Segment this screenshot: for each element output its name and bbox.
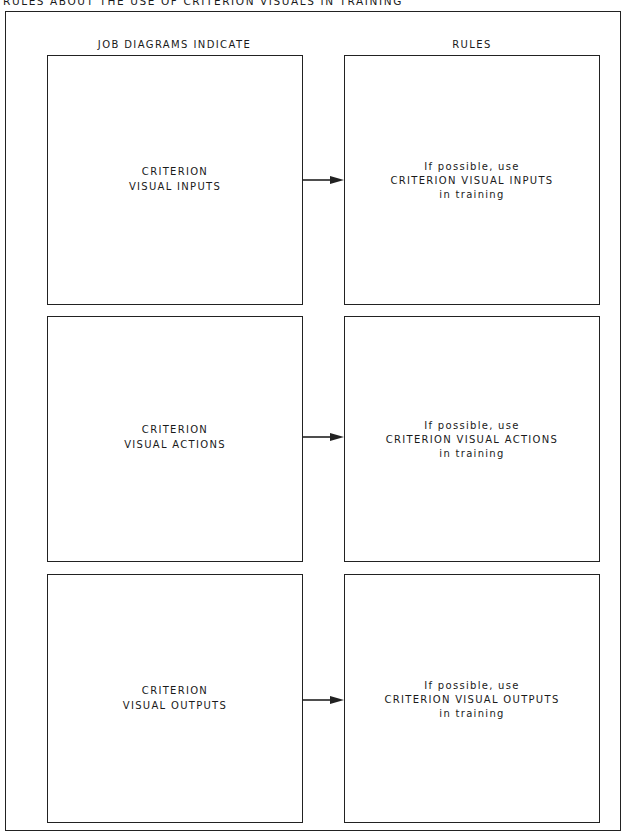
box-line: VISUAL OUTPUTS <box>123 698 227 713</box>
box-line: If possible, use <box>386 419 558 433</box>
box-line: VISUAL ACTIONS <box>124 437 226 452</box>
job-diagram-box-outputs: CRITERION VISUAL OUTPUTS <box>47 574 303 823</box>
box-line: in training <box>391 188 554 202</box>
rule-box-outputs: If possible, use CRITERION VISUAL OUTPUT… <box>344 574 600 823</box>
box-line: in training <box>386 447 558 461</box>
box-line: If possible, use <box>391 160 554 174</box>
box-line: in training <box>384 707 559 721</box>
job-diagram-box-actions: CRITERION VISUAL ACTIONS <box>47 316 303 562</box>
job-diagram-box-inputs: CRITERION VISUAL INPUTS <box>47 55 303 305</box>
box-line: CRITERION VISUAL INPUTS <box>391 174 554 188</box>
arrow-right-icon <box>302 432 344 442</box>
box-line: CRITERION <box>123 683 227 698</box>
box-line: CRITERION <box>129 164 221 179</box>
rule-box-inputs: If possible, use CRITERION VISUAL INPUTS… <box>344 55 600 305</box>
column-header-rules: RULES <box>344 39 600 50</box>
box-line: CRITERION VISUAL OUTPUTS <box>384 693 559 707</box>
rule-box-actions: If possible, use CRITERION VISUAL ACTION… <box>344 316 600 562</box>
column-header-job-diagrams: JOB DIAGRAMS INDICATE <box>47 39 302 50</box>
box-line: If possible, use <box>384 679 559 693</box>
arrow-right-icon <box>302 175 344 185</box>
arrow-right-icon <box>302 695 344 705</box>
box-line: CRITERION VISUAL ACTIONS <box>386 433 558 447</box>
box-line: VISUAL INPUTS <box>129 179 221 194</box>
box-line: CRITERION <box>124 422 226 437</box>
diagram-title: RULES ABOUT THE USE OF CRITERION VISUALS… <box>3 0 403 7</box>
